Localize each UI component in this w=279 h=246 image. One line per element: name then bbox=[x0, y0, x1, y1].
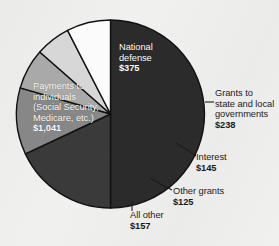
slice-label-interest: Interest $145 bbox=[196, 152, 227, 173]
slice-label-grants-state-local: Grants to state and local governments $2… bbox=[215, 88, 274, 130]
slice-label-line: Payments to bbox=[33, 81, 99, 92]
slice-value-interest: $145 bbox=[196, 163, 227, 174]
slice-label-line: Medicare, etc.) bbox=[33, 113, 99, 124]
slice-label-other-grants: Other grants $125 bbox=[173, 186, 224, 207]
slice-value-all-other: $157 bbox=[130, 221, 164, 232]
slice-label-line: All other bbox=[130, 210, 164, 221]
slice-label-line: (Social Security, bbox=[33, 102, 99, 113]
slice-label-line: governments bbox=[215, 109, 274, 120]
slice-label-all-other: All other $157 bbox=[130, 210, 164, 231]
slice-value-national-defense: $375 bbox=[119, 63, 153, 74]
slice-label-line: Other grants bbox=[173, 186, 224, 197]
pie-chart-figure: Payments to individuals (Social Security… bbox=[0, 0, 279, 246]
slice-value-payments-to-individuals: $1,041 bbox=[33, 123, 99, 134]
slice-label-line: state and local bbox=[215, 99, 274, 110]
slice-label-line: Grants to bbox=[215, 88, 274, 99]
slice-label-payments-to-individuals: Payments to individuals (Social Security… bbox=[33, 81, 99, 134]
slice-label-line: individuals bbox=[33, 92, 99, 103]
slice-label-line: Interest bbox=[196, 152, 227, 163]
slice-value-other-grants: $125 bbox=[173, 197, 224, 208]
slice-label-line: National bbox=[119, 42, 153, 53]
slice-label-line: defense bbox=[119, 53, 153, 64]
slice-value-grants-state-local: $238 bbox=[215, 120, 274, 131]
slice-label-national-defense: National defense $375 bbox=[119, 42, 153, 74]
